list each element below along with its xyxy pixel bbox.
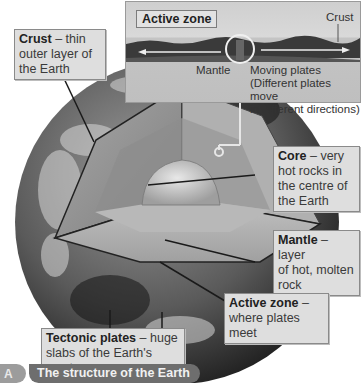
- inset-mantle-label: Mantle: [196, 64, 231, 77]
- inset-moving-plates-label: Moving plates (Different plates move in …: [250, 64, 360, 116]
- mantle-label: Mantle – layer of hot, molten rock: [273, 230, 360, 296]
- active-zone-inset: Active zone Crust Mantle Moving plates (…: [125, 1, 361, 103]
- caption-text: The structure of the Earth: [29, 364, 200, 383]
- active-zone-label: Active zone – where plates meet: [224, 293, 329, 344]
- crust-label: Crust – thin outer layer of the Earth: [14, 29, 106, 80]
- inset-title: Active zone: [136, 10, 217, 28]
- figure-caption: A The structure of the Earth: [0, 364, 200, 383]
- caption-badge: A: [0, 364, 26, 383]
- inset-crust-label: Crust: [326, 11, 353, 24]
- core-label: Core – very hot rocks in the centre of t…: [273, 146, 360, 212]
